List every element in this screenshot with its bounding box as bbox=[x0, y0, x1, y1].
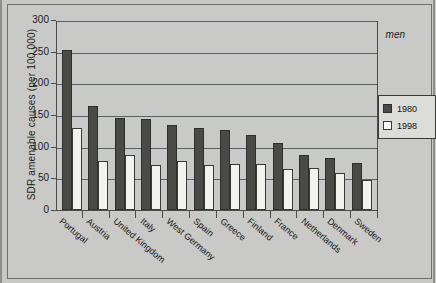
bar-1998-netherlands bbox=[309, 168, 319, 210]
chart-legend: 1980 1998 bbox=[378, 95, 436, 139]
y-tick-mark-300 bbox=[51, 20, 56, 21]
bar-1980-united-kingdom bbox=[115, 118, 125, 210]
legend-label-1998: 1998 bbox=[397, 121, 417, 131]
bar-1998-spain bbox=[204, 165, 214, 210]
y-tick-mark-250 bbox=[51, 52, 56, 53]
legend-label-1980: 1980 bbox=[397, 104, 417, 114]
bar-1998-france bbox=[283, 169, 293, 210]
bar-1998-united-kingdom bbox=[125, 155, 135, 210]
bar-1980-west-germany bbox=[167, 125, 177, 211]
bar-group bbox=[296, 22, 322, 210]
bar-1980-greece bbox=[220, 130, 230, 210]
y-tick-label-300: 300 bbox=[10, 14, 49, 25]
bar-1998-west-germany bbox=[177, 161, 187, 210]
bar-group bbox=[85, 22, 111, 210]
bar-1998-portugal bbox=[72, 128, 82, 210]
bar-group bbox=[138, 22, 164, 210]
y-tick-label-200: 200 bbox=[10, 77, 49, 88]
bar-group bbox=[164, 22, 190, 210]
x-axis-label-italy: Italy bbox=[138, 216, 157, 234]
plot-area bbox=[56, 21, 378, 211]
y-tick-label-0: 0 bbox=[10, 204, 49, 215]
legend-swatch-1998 bbox=[383, 121, 392, 130]
bar-group bbox=[349, 22, 375, 210]
bar-groups bbox=[57, 22, 377, 210]
bar-1980-spain bbox=[194, 128, 204, 210]
bar-1980-austria bbox=[88, 106, 98, 211]
bar-1980-portugal bbox=[62, 50, 72, 210]
bar-group bbox=[59, 22, 85, 210]
x-axis-labels: PortugalAustriaUnited KingdomItalyWest G… bbox=[56, 212, 378, 282]
legend-swatch-1980 bbox=[383, 104, 392, 113]
bar-group bbox=[217, 22, 243, 210]
bar-1998-sweden bbox=[362, 180, 372, 210]
bar-1980-netherlands bbox=[299, 155, 309, 210]
bar-1980-italy bbox=[141, 119, 151, 210]
bar-1998-italy bbox=[151, 165, 161, 210]
y-tick-mark-50 bbox=[51, 178, 56, 179]
figure-inner-border: SDR amenable causes (per 100,000) men 05… bbox=[7, 4, 432, 279]
bar-1998-denmark bbox=[335, 173, 345, 210]
x-axis-label-greece: Greece bbox=[219, 216, 248, 243]
bar-1998-finland bbox=[256, 164, 266, 210]
bar-1998-greece bbox=[230, 164, 240, 210]
bar-group bbox=[112, 22, 138, 210]
y-tick-label-250: 250 bbox=[10, 46, 49, 57]
y-tick-label-50: 50 bbox=[10, 172, 49, 183]
x-axis-label-portugal: Portugal bbox=[58, 216, 90, 245]
y-tick-mark-200 bbox=[51, 83, 56, 84]
bar-1980-france bbox=[273, 143, 283, 210]
bar-1998-austria bbox=[98, 161, 108, 210]
bar-1980-finland bbox=[246, 135, 256, 210]
legend-item-1980: 1980 bbox=[383, 104, 431, 114]
bar-1980-sweden bbox=[352, 163, 362, 211]
legend-item-1998: 1998 bbox=[383, 121, 431, 131]
bar-group bbox=[322, 22, 348, 210]
y-tick-mark-150 bbox=[51, 115, 56, 116]
y-tick-mark-100 bbox=[51, 147, 56, 148]
bar-group bbox=[243, 22, 269, 210]
x-axis-label-finland: Finland bbox=[245, 216, 274, 243]
bar-1980-denmark bbox=[325, 158, 335, 210]
x-axis-label-spain: Spain bbox=[192, 216, 216, 238]
chart-annotation-men: men bbox=[386, 29, 405, 40]
y-tick-label-100: 100 bbox=[10, 141, 49, 152]
x-axis-label-france: France bbox=[272, 216, 300, 242]
y-tick-label-150: 150 bbox=[10, 109, 49, 120]
bar-group bbox=[270, 22, 296, 210]
bar-group bbox=[191, 22, 217, 210]
